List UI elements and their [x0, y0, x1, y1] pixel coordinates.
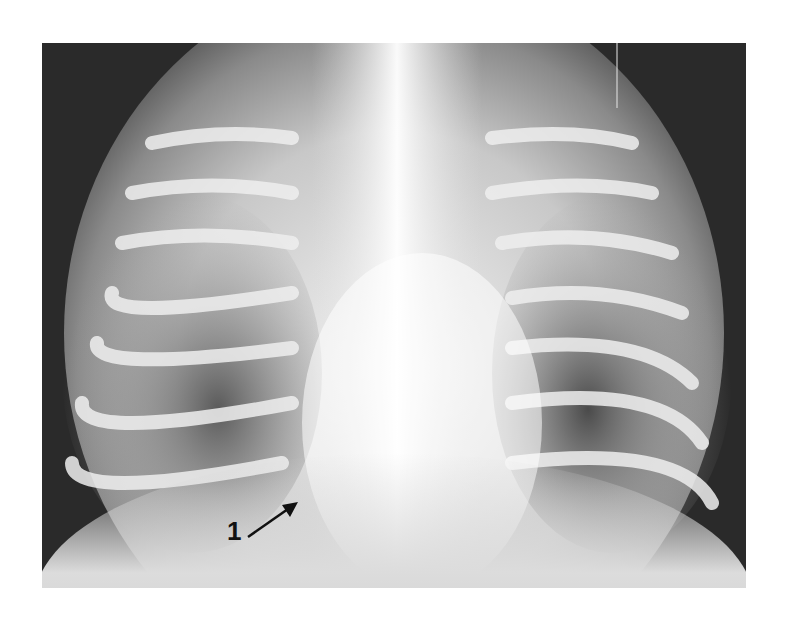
- chest-xray-image: 1: [42, 43, 746, 588]
- arrow-icon: [242, 493, 322, 553]
- annotation-label-1: 1: [227, 516, 241, 547]
- xray-rendering: [42, 43, 746, 588]
